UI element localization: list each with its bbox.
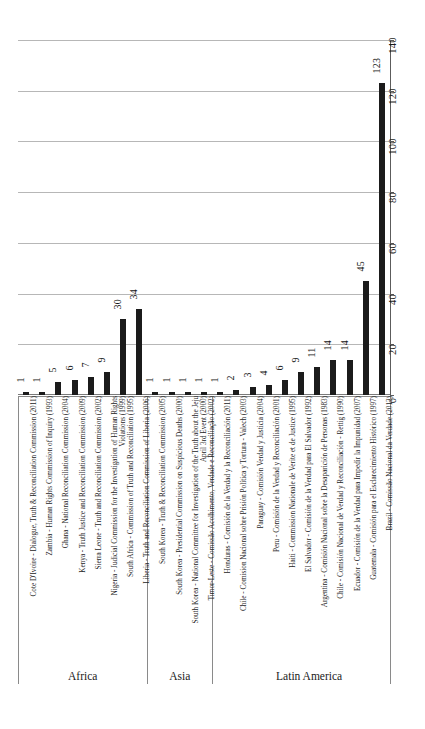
bar-value-label: 14	[339, 340, 350, 350]
bar[interactable]	[314, 367, 320, 395]
bar[interactable]	[104, 372, 110, 395]
bar[interactable]	[88, 377, 94, 395]
bar-slot: 45	[358, 40, 374, 395]
bar[interactable]	[39, 392, 45, 395]
category-label: Haiti - Commission Nationale de Verite e…	[289, 396, 297, 626]
bar-value-label: 9	[290, 357, 301, 362]
category-label: Sierra Leone - Truth and Reconciliation …	[95, 396, 103, 626]
bar-value-label: 9	[96, 357, 107, 362]
bar-value-label: 45	[355, 261, 366, 271]
category-label: South Korea - National Committee for Inv…	[192, 396, 208, 626]
bar[interactable]	[217, 392, 223, 395]
bars-layer: 1156793034111112346911141445123	[18, 40, 390, 395]
bar-value-label: 1	[144, 378, 155, 383]
category-label: Brazil - Comissão Nacional da Verdade (2…	[386, 396, 394, 626]
category-label: Liberia - Truth and Reconciliation Commi…	[143, 396, 151, 626]
bar-slot: 9	[293, 40, 309, 395]
bar-value-label: 1	[209, 378, 220, 383]
bar[interactable]	[120, 319, 126, 395]
bar-value-label: 2	[225, 375, 236, 380]
bar-value-label: 34	[128, 289, 139, 299]
bar[interactable]	[152, 392, 158, 395]
category-label: Cote D'Ivoire - Dialogue, Truth & Reconc…	[30, 396, 38, 626]
bar-value-label: 1	[31, 378, 42, 383]
bar-slot: 1	[34, 40, 50, 395]
group-label: Latin America	[276, 670, 342, 682]
category-label: Chile - Comisión Nacional de Verdad y Re…	[337, 396, 345, 626]
group-labels: AfricaAsiaLatin America	[18, 670, 390, 696]
category-label: Argentina - Comisión Nacional sobre la D…	[321, 396, 329, 626]
bar[interactable]	[169, 392, 175, 395]
bar[interactable]	[250, 387, 256, 395]
category-label: Zambia - Human Rights Commission of Inqu…	[46, 396, 54, 626]
bar-value-label: 6	[64, 365, 75, 370]
bar[interactable]	[266, 385, 272, 395]
bar-slot: 34	[131, 40, 147, 395]
bar-value-label: 11	[306, 348, 317, 358]
category-label: Kenya - Truth Justice and Reconciliation…	[79, 396, 87, 626]
bar-value-label: 1	[161, 378, 172, 383]
bar-value-label: 1	[193, 378, 204, 383]
bar-slot: 7	[83, 40, 99, 395]
bar-value-label: 4	[258, 370, 269, 375]
bar-slot: 123	[374, 40, 390, 395]
bar[interactable]	[379, 83, 385, 395]
category-label: South Korea - Truth & Reconciliation Com…	[159, 396, 167, 626]
bar-slot: 1	[196, 40, 212, 395]
bar-slot: 6	[277, 40, 293, 395]
bar[interactable]	[363, 281, 369, 395]
bar[interactable]	[298, 372, 304, 395]
bar-slot: 14	[341, 40, 357, 395]
category-label: South Africa - Commission of Truth and R…	[127, 396, 135, 626]
bar[interactable]	[233, 390, 239, 395]
category-label: Ecuador - Comisión de la Verdad para Imp…	[354, 396, 362, 626]
category-label: South Korea - Presidential Commission on…	[176, 396, 184, 626]
bar-value-label: 6	[274, 365, 285, 370]
category-label: Peru - Comisión de la Verdad y Reconcili…	[273, 396, 281, 626]
bar-slot: 4	[261, 40, 277, 395]
bar-value-label: 1	[177, 378, 188, 383]
bar-slot: 6	[67, 40, 83, 395]
bar-value-label: 14	[322, 340, 333, 350]
bar[interactable]	[282, 380, 288, 395]
category-label: Nigeria - Judicial Commission for the In…	[111, 396, 127, 626]
category-label: Paraguay - Comisión Verdad y Justicia (2…	[257, 396, 265, 626]
bar[interactable]	[72, 380, 78, 395]
bar-slot: 5	[50, 40, 66, 395]
bar-slot: 1	[212, 40, 228, 395]
bar-slot: 1	[164, 40, 180, 395]
bar-value-label: 30	[112, 299, 123, 309]
category-label: Timor-Leste - Comissão Acolhimento, Verd…	[208, 396, 216, 626]
bar[interactable]	[185, 392, 191, 395]
bar-slot: 1	[147, 40, 163, 395]
bar-chart: 020406080100120140 115679303411111234691…	[0, 0, 425, 729]
bar[interactable]	[201, 392, 207, 395]
bar[interactable]	[330, 360, 336, 396]
group-label: Asia	[169, 670, 190, 682]
category-labels: Cote D'Ivoire - Dialogue, Truth & Reconc…	[18, 396, 390, 636]
bar[interactable]	[136, 309, 142, 395]
bar-value-label: 7	[80, 363, 91, 368]
bar[interactable]	[23, 392, 29, 395]
category-label: El Salvador - Comisión de la Verdad para…	[305, 396, 313, 626]
category-label: Honduras - Comisión de la Verdad y la Re…	[224, 396, 232, 626]
bar-slot: 1	[18, 40, 34, 395]
bar-value-label: 1	[15, 378, 26, 383]
bar-value-label: 5	[47, 368, 58, 373]
bar[interactable]	[55, 382, 61, 395]
bar-value-label: 123	[371, 58, 382, 74]
bar[interactable]	[347, 360, 353, 396]
category-label: Guatemala - Comisión para el Esclarecimi…	[370, 396, 378, 626]
category-label: Ghana - National Reconciliation Commissi…	[62, 396, 70, 626]
group-label: Africa	[68, 670, 97, 682]
bar-slot: 3	[244, 40, 260, 395]
bar-value-label: 3	[242, 373, 253, 378]
bar-slot: 30	[115, 40, 131, 395]
bar-slot: 9	[99, 40, 115, 395]
category-label: Chile - Comision Nacional sobre Prisión …	[240, 396, 248, 626]
bar-slot: 2	[228, 40, 244, 395]
bar-slot: 1	[180, 40, 196, 395]
